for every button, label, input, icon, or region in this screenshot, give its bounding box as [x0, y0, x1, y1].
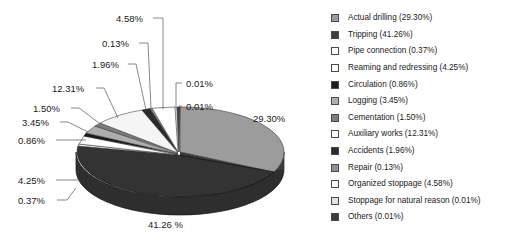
legend-item-label: Circulation (0.86%)	[348, 81, 418, 89]
legend-swatch-icon	[331, 164, 339, 172]
legend-item: Reaming and redressing (4.25%)	[331, 60, 509, 77]
label-reaming: 4.25%	[18, 175, 45, 186]
label-tripping: 41.26 %	[148, 219, 183, 230]
legend-item-label: Cementation (1.50%)	[348, 114, 425, 122]
legend-item-label: Stoppage for natural reason (0.01%)	[348, 197, 480, 205]
legend-item: Logging (3.45%)	[331, 93, 509, 110]
pie-chart-figure: 4.58% 0.13% 1.96% 0.01% 0.01% 12.31% 1.5…	[0, 0, 509, 241]
legend-item-label: Reaming and redressing (4.25%)	[348, 64, 468, 72]
legend-item-label: Accidents (1.96%)	[348, 147, 414, 155]
legend-swatch-icon	[331, 130, 339, 138]
legend-item: Pipe connection (0.37%)	[331, 43, 509, 60]
leader-cementation	[71, 108, 99, 123]
pie-chart-svg: 4.58% 0.13% 1.96% 0.01% 0.01% 12.31% 1.5…	[0, 0, 320, 241]
leader-accidents	[128, 64, 146, 110]
legend-swatch-icon	[331, 114, 339, 122]
label-natural-reason: 0.01%	[186, 78, 213, 89]
label-actual-drilling: 29.30%	[253, 113, 286, 124]
legend-item-label: Auxiliary works (12.31%)	[348, 130, 438, 138]
legend-item: Tripping (41.26%)	[331, 27, 509, 44]
legend-item: Accidents (1.96%)	[331, 143, 509, 160]
leader-auxiliary	[96, 88, 118, 118]
leader-natural-reason	[176, 83, 182, 108]
leader-logging	[60, 122, 88, 132]
legend-item: Actual drilling (29.30%)	[331, 10, 509, 27]
legend-item-label: Tripping (41.26%)	[348, 31, 413, 39]
leader-repair	[139, 43, 151, 109]
label-organized-stoppage: 4.58%	[116, 13, 143, 24]
leader-organized-stoppage	[153, 18, 163, 109]
label-repair: 0.13%	[102, 38, 129, 49]
pie-chart-plot: 4.58% 0.13% 1.96% 0.01% 0.01% 12.31% 1.5…	[0, 0, 320, 241]
legend-swatch-icon	[331, 14, 339, 22]
legend-item: Auxiliary works (12.31%)	[331, 126, 509, 143]
legend-item: Circulation (0.86%)	[331, 76, 509, 93]
legend-item: Others (0.01%)	[331, 209, 509, 226]
label-cementation: 1.50%	[33, 103, 60, 114]
label-logging: 3.45%	[22, 117, 49, 128]
legend-swatch-icon	[331, 213, 339, 221]
legend-item-label: Pipe connection (0.37%)	[348, 47, 437, 55]
legend-item: Cementation (1.50%)	[331, 110, 509, 127]
legend-swatch-icon	[331, 81, 339, 89]
label-circulation: 0.86%	[18, 135, 45, 146]
legend-swatch-icon	[331, 47, 339, 55]
legend-item: Organized stoppage (4.58%)	[331, 176, 509, 193]
legend-swatch-icon	[331, 31, 339, 39]
label-others: 0.01%	[186, 101, 213, 112]
leader-pipe-connection	[57, 188, 76, 200]
legend-item-label: Logging (3.45%)	[348, 97, 408, 105]
label-pipe-connection: 0.37%	[18, 195, 45, 206]
legend-item-label: Actual drilling (29.30%)	[348, 14, 432, 22]
legend-item-label: Repair (0.13%)	[348, 164, 403, 172]
legend-item: Stoppage for natural reason (0.01%)	[331, 193, 509, 210]
legend-swatch-icon	[331, 197, 339, 205]
legend-item-label: Organized stoppage (4.58%)	[348, 180, 453, 188]
chart-legend: Actual drilling (29.30%) Tripping (41.26…	[331, 10, 509, 226]
label-accidents: 1.96%	[92, 59, 119, 70]
legend-swatch-icon	[331, 64, 339, 72]
legend-item-label: Others (0.01%)	[348, 213, 404, 221]
legend-swatch-icon	[331, 180, 339, 188]
label-auxiliary-works: 12.31%	[52, 83, 85, 94]
legend-item: Repair (0.13%)	[331, 159, 509, 176]
legend-swatch-icon	[331, 147, 339, 155]
legend-swatch-icon	[331, 97, 339, 105]
